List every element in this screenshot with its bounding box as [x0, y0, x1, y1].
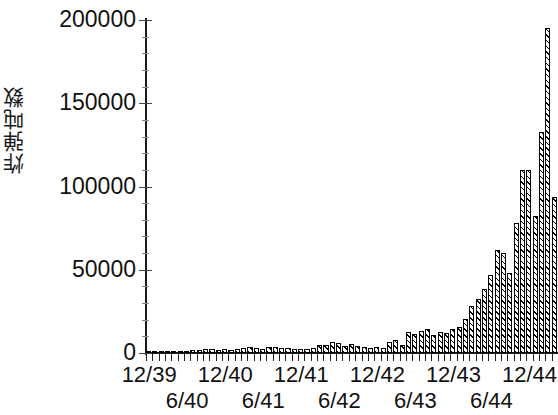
bar — [165, 351, 170, 353]
bar — [146, 351, 151, 353]
x-tick-mark — [425, 354, 426, 361]
y-tick-label: 100000 — [0, 175, 136, 198]
bar — [184, 351, 189, 353]
x-tick-mark — [190, 354, 191, 361]
bar — [235, 349, 240, 353]
x-tick-mark — [406, 354, 407, 361]
bar — [311, 348, 316, 353]
bar — [216, 350, 221, 353]
bar — [438, 332, 443, 353]
bar — [279, 348, 284, 353]
x-tick-label: 6/41 — [242, 390, 285, 412]
bar — [507, 273, 512, 353]
bar — [400, 345, 405, 353]
x-tick-mark — [368, 354, 369, 361]
bar — [330, 342, 335, 353]
bar — [526, 170, 531, 353]
bar — [159, 351, 164, 353]
x-tick-mark — [159, 354, 160, 361]
x-tick-mark — [469, 354, 470, 361]
x-tick-label: 12/39 — [122, 364, 177, 386]
bar — [425, 329, 430, 353]
x-tick-mark — [431, 354, 432, 361]
x-tick-mark — [444, 354, 445, 361]
x-tick-mark — [254, 354, 255, 361]
bar — [222, 349, 227, 353]
x-tick-label: 12/40 — [198, 364, 253, 386]
x-tick-mark — [482, 354, 483, 361]
x-tick-mark — [355, 354, 356, 361]
x-tick-mark — [501, 354, 502, 361]
x-tick-mark — [539, 354, 540, 361]
x-tick-mark — [146, 354, 147, 361]
bar — [444, 333, 449, 353]
x-tick-label: 12/43 — [426, 364, 481, 386]
x-tick-mark — [349, 354, 350, 361]
x-tick-mark — [323, 354, 324, 361]
x-tick-mark — [393, 354, 394, 361]
bar — [381, 348, 386, 353]
x-tick-mark — [488, 354, 489, 361]
x-tick-mark — [419, 354, 420, 361]
bar — [228, 350, 233, 353]
bar — [304, 349, 309, 353]
x-tick-label: 12/44 — [502, 364, 557, 386]
x-tick-mark — [463, 354, 464, 361]
x-tick-mark — [171, 354, 172, 361]
bar — [266, 347, 271, 353]
bar — [209, 349, 214, 353]
x-tick-mark — [273, 354, 274, 361]
bar — [171, 351, 176, 353]
x-tick-mark — [387, 354, 388, 361]
x-tick-mark — [495, 354, 496, 361]
x-tick-mark — [552, 354, 553, 361]
bar-series — [146, 20, 558, 353]
bar — [488, 275, 493, 353]
bar — [317, 345, 322, 353]
bar — [292, 349, 297, 353]
bar — [463, 319, 468, 353]
x-tick-mark — [298, 354, 299, 361]
bar-chart: 炸弹吨数 050000100000150000200000 12/3912/40… — [0, 0, 558, 415]
bar — [362, 347, 367, 353]
x-tick-mark — [228, 354, 229, 361]
x-tick-mark — [514, 354, 515, 361]
y-tick-label: 0 — [0, 341, 136, 364]
x-tick-label: 6/44 — [470, 390, 513, 412]
x-tick-mark — [197, 354, 198, 361]
bar — [254, 348, 259, 353]
x-tick-mark — [520, 354, 521, 361]
bar — [419, 331, 424, 353]
x-tick-mark — [533, 354, 534, 361]
bar — [374, 347, 379, 353]
bar — [190, 350, 195, 353]
x-tick-mark — [342, 354, 343, 361]
x-tick-mark — [304, 354, 305, 361]
x-tick-mark — [209, 354, 210, 361]
bar — [323, 345, 328, 353]
x-tick-label: 12/42 — [350, 364, 405, 386]
bar — [514, 223, 519, 353]
x-tick-label: 6/43 — [394, 390, 437, 412]
bar — [178, 351, 183, 353]
x-tick-mark — [450, 354, 451, 361]
bar — [203, 349, 208, 353]
bar — [241, 348, 246, 353]
x-tick-label: 6/42 — [318, 390, 361, 412]
bar — [349, 344, 354, 353]
x-tick-label: 12/41 — [274, 364, 329, 386]
x-tick-mark — [311, 354, 312, 361]
x-tick-mark — [507, 354, 508, 361]
bar — [355, 346, 360, 353]
x-tick-mark — [285, 354, 286, 361]
y-tick-label: 200000 — [0, 8, 136, 31]
bar — [520, 170, 525, 353]
x-tick-mark — [266, 354, 267, 361]
x-tick-mark — [247, 354, 248, 361]
bar — [412, 334, 417, 353]
y-tick-label: 150000 — [0, 91, 136, 114]
bar — [469, 306, 474, 353]
bar — [457, 327, 462, 353]
x-tick-mark — [260, 354, 261, 361]
bar — [368, 348, 373, 353]
